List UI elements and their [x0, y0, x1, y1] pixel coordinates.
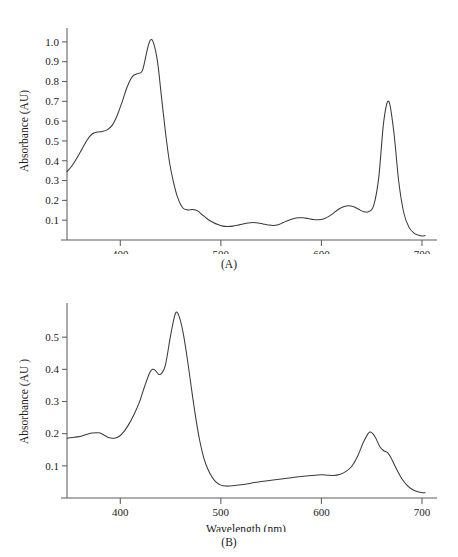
panel-b: 0.10.20.30.40.5400500600700Wavelength (n…	[0, 287, 458, 555]
y-tick-label: 1.0	[45, 36, 59, 48]
y-tick-label: 0.5	[45, 135, 59, 147]
spectrum-curve	[67, 39, 425, 236]
panel-a-caption: (A)	[0, 258, 458, 270]
y-tick-label: 0.1	[45, 460, 59, 472]
figure-page: 0.10.20.30.40.50.60.70.80.91.04005006007…	[0, 0, 458, 557]
y-tick-label: 0.1	[45, 214, 59, 226]
cropped-header-text	[0, 0, 458, 7]
spectrum-chart-b: 0.10.20.30.40.5400500600700Wavelength (n…	[0, 287, 458, 532]
y-tick-label: 0.4	[45, 363, 59, 375]
y-tick-label: 0.4	[45, 155, 59, 167]
spectrum-curve	[67, 312, 425, 493]
y-tick-label: 0.7	[45, 95, 59, 107]
x-tick-label: 500	[213, 506, 230, 518]
y-axis-title: Absorbance (AU )	[18, 359, 31, 444]
x-tick-label: 400	[112, 248, 129, 254]
y-tick-label: 0.8	[45, 75, 59, 87]
x-axis-title: Wavelength (nm)	[206, 523, 286, 532]
x-tick-label: 600	[313, 506, 330, 518]
panel-b-caption: (B)	[0, 536, 458, 548]
y-tick-label: 0.6	[45, 115, 59, 127]
y-tick-label: 0.2	[45, 194, 59, 206]
x-tick-label: 500	[213, 248, 230, 254]
y-tick-label: 0.9	[45, 55, 59, 67]
y-axis-title: Absorbance (AU)	[18, 90, 31, 172]
y-tick-label: 0.3	[45, 174, 59, 186]
x-tick-label: 600	[313, 248, 330, 254]
y-tick-label: 0.5	[45, 331, 59, 343]
x-tick-label: 700	[414, 248, 431, 254]
y-tick-label: 0.2	[45, 427, 59, 439]
panel-a: 0.10.20.30.40.50.60.70.80.91.04005006007…	[0, 14, 458, 274]
spectrum-chart-a: 0.10.20.30.40.50.60.70.80.91.04005006007…	[0, 14, 458, 254]
y-tick-label: 0.3	[45, 395, 59, 407]
x-tick-label: 400	[112, 506, 129, 518]
x-tick-label: 700	[414, 506, 431, 518]
